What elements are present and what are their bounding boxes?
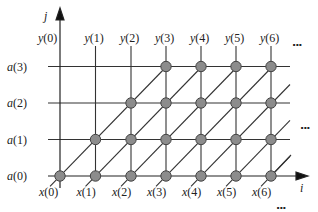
- processing-node: [196, 98, 206, 108]
- processing-node: [231, 171, 241, 181]
- column-label-bottom: x(3): [147, 186, 166, 198]
- processing-node: [161, 171, 171, 181]
- column-label-top: y(3): [155, 32, 174, 44]
- column-label-top: y(6): [260, 32, 279, 44]
- processing-node: [55, 171, 65, 181]
- row-label: a(3): [7, 61, 27, 73]
- row-label: a(0): [7, 170, 27, 182]
- j-axis-arrow-icon: [56, 8, 64, 20]
- processing-node: [126, 134, 136, 144]
- processing-node: [266, 61, 276, 71]
- processing-node: [161, 61, 171, 71]
- processing-node: [266, 98, 276, 108]
- processing-node: [196, 134, 206, 144]
- processing-node: [231, 134, 241, 144]
- processing-node: [266, 134, 276, 144]
- diagonal-dependency-line: [121, 67, 238, 187]
- i-axis-label: i: [300, 182, 303, 194]
- column-label-top: y(0): [38, 32, 57, 44]
- diagonal-dependency-line: [86, 67, 203, 187]
- processing-node: [266, 171, 276, 181]
- column-label-top: y(2): [120, 32, 139, 44]
- processing-node: [161, 134, 171, 144]
- processing-node: [90, 171, 100, 181]
- processing-node: [90, 134, 100, 144]
- column-label-bottom: x(1): [77, 186, 96, 198]
- processing-node: [196, 61, 206, 71]
- row-label: a(1): [7, 134, 27, 146]
- ellipsis-right: ...: [300, 122, 310, 130]
- diagonal-dependency-line: [50, 67, 167, 187]
- processing-node: [126, 98, 136, 108]
- column-label-bottom: x(0): [39, 186, 58, 198]
- column-label-bottom: x(6): [252, 186, 271, 198]
- processing-node: [231, 61, 241, 71]
- column-label-bottom: x(5): [217, 186, 236, 198]
- processing-node: [126, 171, 136, 181]
- ellipsis-top: ...: [292, 39, 302, 47]
- ellipsis-bottom: ...: [276, 202, 286, 210]
- column-label-top: y(4): [190, 32, 209, 44]
- column-label-top: y(1): [85, 32, 104, 44]
- column-label-bottom: x(4): [182, 186, 201, 198]
- processing-node: [196, 171, 206, 181]
- row-label: a(2): [7, 97, 27, 109]
- column-label-top: y(5): [225, 32, 244, 44]
- column-label-bottom: x(2): [112, 186, 131, 198]
- processing-node: [231, 98, 241, 108]
- processing-node: [161, 98, 171, 108]
- diagonal-dependency-line: [156, 67, 273, 187]
- j-axis-label: j: [44, 10, 47, 22]
- i-axis-arrow-icon: [296, 172, 308, 180]
